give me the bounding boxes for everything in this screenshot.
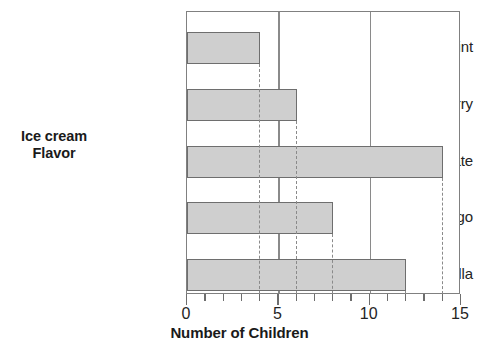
y-axis-title-line2: Flavor	[2, 145, 106, 162]
x-axis-title: Number of Children	[0, 324, 479, 341]
bar	[187, 146, 443, 178]
leader-line	[442, 178, 443, 294]
x-axis-minor-tick	[350, 294, 351, 301]
x-axis-minor-tick	[259, 294, 260, 301]
x-axis-minor-tick	[423, 294, 424, 301]
bar	[187, 32, 260, 64]
x-axis-minor-tick	[332, 294, 333, 301]
x-axis-tick-label: 10	[349, 304, 389, 323]
bar	[187, 202, 333, 234]
x-axis-minor-tick	[204, 294, 205, 301]
leader-line	[332, 234, 333, 294]
x-axis-minor-tick	[442, 294, 443, 301]
x-axis-minor-tick	[241, 294, 242, 301]
bar-chart: Ice cream Flavor MintStrawberryChocolate…	[0, 0, 479, 351]
leader-line	[296, 121, 297, 294]
x-axis-minor-tick	[387, 294, 388, 301]
x-axis-tick-label: 15	[440, 304, 479, 323]
leader-line	[259, 64, 260, 294]
plot-area	[186, 11, 460, 294]
bar	[187, 259, 406, 291]
y-axis-title: Ice cream Flavor	[2, 128, 106, 162]
x-axis-minor-tick	[405, 294, 406, 301]
y-axis-title-line1: Ice cream	[2, 128, 106, 145]
x-axis-minor-tick	[223, 294, 224, 301]
x-axis-minor-tick	[296, 294, 297, 301]
bar	[187, 89, 297, 121]
x-axis-tick-label: 5	[257, 304, 297, 323]
x-axis-minor-tick	[314, 294, 315, 301]
x-axis-tick-label: 0	[166, 304, 206, 323]
